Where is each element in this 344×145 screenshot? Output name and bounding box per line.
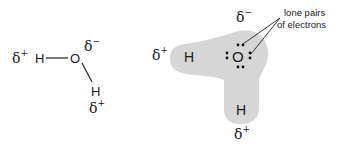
atom-h-bottom: H xyxy=(91,85,100,98)
annotation-line-2: of electrons xyxy=(277,20,326,30)
atom-h-left: H xyxy=(35,52,44,65)
partial-charge-h-bottom: δ+ xyxy=(89,100,105,115)
atom-h-bottom-right: H xyxy=(236,103,246,117)
partial-charge-o: δ− xyxy=(84,38,100,53)
partial-charge-h-left: δ+ xyxy=(12,50,28,65)
partial-charge-h-left-right: δ+ xyxy=(152,47,168,62)
partial-charge-o-right: δ− xyxy=(236,9,252,24)
partial-charge-h-bottom-right: δ+ xyxy=(234,126,250,141)
atom-o-right: O xyxy=(232,49,244,64)
atom-h-left-right: H xyxy=(184,50,194,64)
annotation-line-1: lone pairs xyxy=(284,8,325,18)
atom-o: O xyxy=(70,52,80,65)
bond-o-h xyxy=(82,63,92,82)
electron-cloud xyxy=(170,31,268,124)
